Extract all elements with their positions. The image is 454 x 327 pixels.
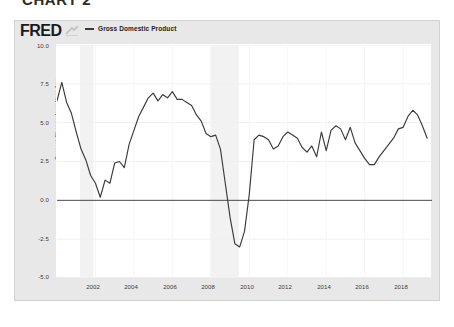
x-tick-label: 2018 <box>386 284 416 290</box>
x-tick-label: 2016 <box>347 284 377 290</box>
x-tick-label: 2014 <box>309 284 339 290</box>
y-tick-label: 0.0 <box>23 197 49 203</box>
y-tick-label: 5.0 <box>23 120 49 126</box>
y-tick-label: -2.5 <box>23 236 49 242</box>
y-tick-label: 2.5 <box>23 158 49 164</box>
legend-line-swatch <box>85 28 94 30</box>
plot-area <box>56 44 431 277</box>
chart-legend: Gross Domestic Product <box>85 25 176 32</box>
series-line-gross-domestic-product <box>57 82 427 247</box>
chart-svg <box>57 45 432 278</box>
y-tick-label: 7.5 <box>23 81 49 87</box>
fred-swoosh-icon <box>65 25 79 36</box>
y-tick-label: -5.0 <box>23 274 49 280</box>
x-tick-label: 2002 <box>78 284 108 290</box>
fred-chart-card: FRED Gross Domestic Product Percent Chan… <box>14 20 440 301</box>
x-tick-label: 2004 <box>116 284 146 290</box>
x-tick-label: 2006 <box>155 284 185 290</box>
x-tick-label: 2012 <box>270 284 300 290</box>
x-tick-label: 2010 <box>232 284 262 290</box>
page-heading: CHART 2 <box>22 0 91 8</box>
y-tick-label: 10.0 <box>23 43 49 49</box>
fred-logo: FRED <box>20 22 62 40</box>
fred-chart-header: FRED Gross Domestic Product <box>15 21 439 40</box>
legend-item-label: Gross Domestic Product <box>98 25 176 32</box>
x-tick-label: 2008 <box>193 284 223 290</box>
